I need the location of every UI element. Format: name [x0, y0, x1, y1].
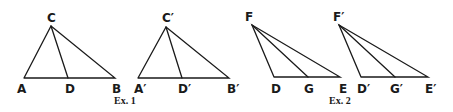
geometry-figures: C A D B C′ A′ D′ B′ Ex. 1 F D G E F′ D′ … [0, 0, 453, 112]
triangle-def: F D G E [245, 10, 347, 96]
label-f: F [245, 10, 253, 24]
triangle-abc-prime-outline [138, 27, 229, 78]
label-c: C [47, 11, 56, 25]
segment-fg-prime [339, 25, 395, 77]
label-d-prime-ex2: D′ [357, 82, 370, 96]
label-b: B [112, 82, 121, 96]
caption-ex1: Ex. 1 [114, 95, 136, 106]
label-c-prime: C′ [162, 11, 174, 25]
triangle-def-prime-outline [339, 25, 428, 77]
label-d: D [65, 82, 75, 96]
caption-ex2: Ex. 2 [329, 95, 351, 106]
label-d-prime: D′ [178, 82, 191, 96]
label-g: G [304, 82, 314, 96]
label-a: A [17, 82, 27, 96]
label-g-prime: G′ [390, 82, 403, 96]
triangle-abc: C A D B [17, 11, 121, 96]
triangle-abc-prime: C′ A′ D′ B′ [134, 11, 239, 96]
label-b-prime: B′ [227, 82, 239, 96]
label-f-prime: F′ [333, 10, 344, 24]
segment-cd [51, 26, 68, 78]
triangle-def-outline [252, 25, 340, 77]
triangle-def-prime: F′ D′ G′ E′ [333, 10, 436, 96]
triangle-abc-outline [24, 26, 115, 78]
label-a-prime: A′ [134, 82, 146, 96]
label-e-prime: E′ [425, 82, 436, 96]
label-e: E [339, 82, 347, 96]
segment-cd-prime [166, 27, 182, 78]
label-d-ex2: D [271, 82, 281, 96]
segment-fg [252, 25, 308, 77]
